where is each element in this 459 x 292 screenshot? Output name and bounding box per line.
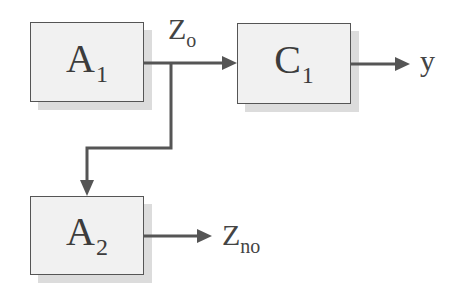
block-a1-label: A1 bbox=[66, 39, 108, 86]
arrowhead-right-icon bbox=[197, 229, 212, 243]
block-a1: A1 bbox=[30, 22, 144, 102]
arrowhead-right-icon bbox=[222, 56, 237, 70]
block-a2-label: A2 bbox=[66, 212, 108, 259]
arrowhead-down-icon bbox=[80, 180, 94, 196]
block-c1: C1 bbox=[237, 23, 351, 104]
arrowhead-right-icon bbox=[395, 57, 410, 71]
block-a2: A2 bbox=[30, 196, 144, 275]
block-c1-label: C1 bbox=[274, 40, 314, 87]
signal-label-y: y bbox=[420, 46, 435, 76]
signal-label-zo: Zo bbox=[168, 14, 196, 50]
signal-label-zno: Zno bbox=[222, 220, 260, 256]
